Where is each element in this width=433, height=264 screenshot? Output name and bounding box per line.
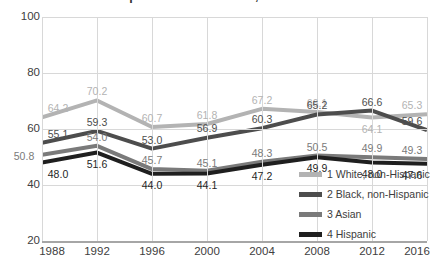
data-label: 56.9 xyxy=(197,123,217,133)
data-label: 45.1 xyxy=(197,158,217,168)
data-label: 50.8 xyxy=(14,151,34,161)
data-label: 49.9 xyxy=(362,143,382,153)
y-axis-tick-label: 60 xyxy=(4,123,40,134)
data-label: 65.2 xyxy=(307,100,327,110)
data-label: 66.6 xyxy=(362,97,382,107)
data-label: 70.2 xyxy=(87,86,107,96)
legend-item-label: 3 Asian xyxy=(327,208,361,220)
legend-item-label: 1 White, non-Hispanic xyxy=(327,168,430,180)
data-label: 49.3 xyxy=(402,145,422,155)
legend-item-label: 2 Black, non-Hispanic xyxy=(327,188,429,200)
x-axis-tick-label: 2016 xyxy=(404,245,430,257)
x-axis-tick-label: 2004 xyxy=(249,245,275,257)
legend-swatch-icon xyxy=(299,212,322,217)
x-axis-tick-label: 2012 xyxy=(359,245,385,257)
data-label: 67.2 xyxy=(252,95,272,105)
data-label: 50.5 xyxy=(307,142,327,152)
legend-swatch-icon xyxy=(299,172,322,177)
x-axis-tick-label: 1996 xyxy=(139,245,165,257)
x-axis-tick-label: 2008 xyxy=(304,245,330,257)
data-label: 54.0 xyxy=(87,132,107,142)
data-label: 45.7 xyxy=(142,155,162,165)
chart-legend: 1 White, non-Hispanic2 Black, non-Hispan… xyxy=(299,166,431,246)
data-label: 51.6 xyxy=(87,159,107,169)
data-label: 48.3 xyxy=(252,148,272,158)
legend-item-2[interactable]: 2 Black, non-Hispanic xyxy=(299,186,431,202)
y-axis-tick-label: 100 xyxy=(4,11,40,22)
legend-item-1[interactable]: 1 White, non-Hispanic xyxy=(299,166,431,182)
legend-swatch-icon xyxy=(299,192,322,197)
data-label: 64.2 xyxy=(48,103,68,113)
data-label: 64.1 xyxy=(362,124,382,134)
data-label: 65.3 xyxy=(402,100,422,110)
legend-item-4[interactable]: 4 Hispanic xyxy=(299,226,431,242)
data-label: 47.2 xyxy=(252,171,272,181)
gridline-vertical xyxy=(262,17,263,241)
y-axis: 20406080100 xyxy=(0,17,40,241)
data-label: 44.0 xyxy=(142,180,162,190)
legend-swatch-icon xyxy=(299,232,322,237)
data-label: 44.1 xyxy=(197,180,217,190)
gridline-vertical xyxy=(152,17,153,241)
legend-item-3[interactable]: 3 Asian xyxy=(299,206,431,222)
data-label: 60.3 xyxy=(252,114,272,124)
data-label: 55.1 xyxy=(48,129,68,139)
x-axis-tick-label: 1992 xyxy=(84,245,110,257)
data-label: 48.0 xyxy=(48,169,68,179)
gridline-vertical xyxy=(97,17,98,241)
gridline-vertical xyxy=(42,17,43,241)
data-label: 60.7 xyxy=(142,113,162,123)
voter-turnout-line-chart: Voter turnout rates in presidential elec… xyxy=(0,0,433,264)
y-axis-tick-label: 80 xyxy=(4,67,40,78)
x-axis-tick-label: 2000 xyxy=(194,245,220,257)
y-axis-tick-label: 20 xyxy=(4,235,40,246)
data-label: 59.3 xyxy=(87,117,107,127)
gridline-horizontal xyxy=(42,73,427,74)
data-label: 59.6 xyxy=(402,116,422,126)
y-axis-tick-label: 40 xyxy=(4,179,40,190)
chart-title: Voter turnout rates in presidential elec… xyxy=(2,0,422,3)
x-axis: 19881992199620002004200820122016 xyxy=(42,245,432,261)
data-label: 61.8 xyxy=(197,110,217,120)
gridline-horizontal xyxy=(42,17,427,18)
x-axis-tick-label: 1988 xyxy=(39,245,65,257)
legend-item-label: 4 Hispanic xyxy=(327,228,376,240)
data-label: 53.0 xyxy=(142,135,162,145)
